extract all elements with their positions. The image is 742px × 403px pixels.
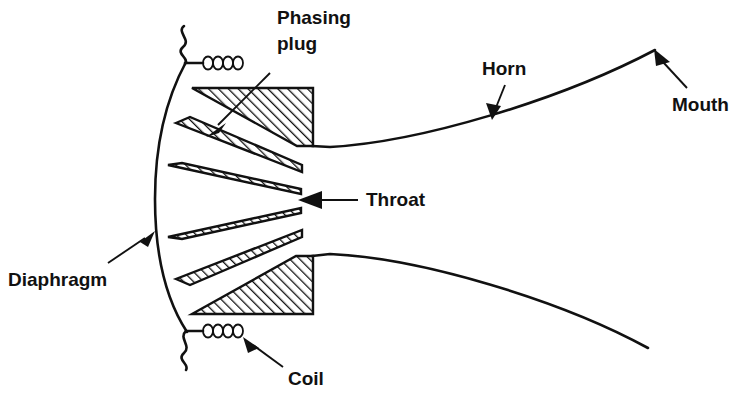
throat-label: Throat: [366, 189, 426, 210]
coil-arrowhead: [243, 337, 259, 353]
mouth-arrowhead: [654, 49, 670, 66]
horn-driver-diagram: Throat Phasing plug Horn Mouth Diaphragm: [0, 0, 742, 403]
phasing-plug-wedges: [168, 88, 313, 314]
top-suspension-coil-group: [181, 26, 243, 70]
top-spring-squiggle: [181, 26, 186, 64]
diagram-canvas: Throat Phasing plug Horn Mouth Diaphragm: [0, 0, 742, 403]
mouth-label: Mouth: [672, 94, 729, 115]
horn-lower-flare: [312, 254, 648, 348]
diaphragm-group: [155, 62, 187, 332]
phasing-plug-wedge-4: [168, 208, 301, 239]
phasing-plug-wedge-3: [168, 163, 301, 194]
coil-annotation: Coil: [243, 337, 324, 389]
coil-label: Coil: [288, 368, 324, 389]
diaphragm-leader-line: [108, 238, 145, 263]
phasing-plug-label-line1: Phasing: [277, 7, 351, 28]
top-coil-winding: [203, 57, 243, 70]
diaphragm-label: Diaphragm: [8, 269, 107, 290]
phasing-plug-label-line2: plug: [277, 33, 317, 54]
mouth-leader-line: [663, 62, 687, 88]
horn-arrowhead: [486, 103, 501, 120]
horn-group: [312, 50, 655, 348]
bottom-spring-squiggle: [181, 331, 186, 370]
bottom-coil-winding: [203, 325, 243, 338]
throat-annotation: Throat: [298, 189, 426, 210]
bottom-suspension-coil-group: [181, 325, 243, 371]
diaphragm-arc: [155, 62, 187, 332]
mouth-annotation: Mouth: [654, 49, 729, 115]
horn-label: Horn: [482, 58, 526, 79]
diaphragm-annotation: Diaphragm: [8, 231, 155, 290]
